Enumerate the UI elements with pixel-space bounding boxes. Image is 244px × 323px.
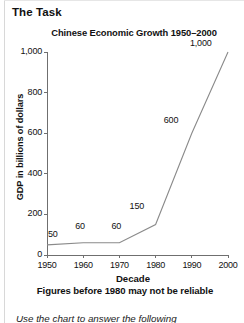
data-point-label: 150 (130, 201, 144, 211)
instruction-text: Use the chart to answer the following (16, 313, 177, 323)
x-tick-label: 1990 (174, 260, 210, 270)
data-point-label: 600 (164, 115, 178, 125)
data-point-label: 60 (75, 221, 85, 231)
chart-footnote: Figures before 1980 may not be reliable (0, 285, 244, 296)
y-tick-label: 200 (0, 208, 42, 218)
y-tick-label: 400 (0, 168, 42, 178)
x-tick-label: 1970 (101, 260, 137, 270)
y-tick-label: 1,000 (0, 46, 42, 56)
x-tick-label: 1980 (138, 260, 174, 270)
x-tick-label: 1950 (29, 260, 65, 270)
data-point-label: 50 (48, 229, 58, 239)
data-point-label: 60 (111, 221, 121, 231)
x-tick-label: 1960 (65, 260, 101, 270)
x-axis-label: Decade (0, 273, 244, 284)
y-tick-label: 0 (0, 249, 42, 259)
data-point-label: 1,000 (190, 38, 212, 48)
y-tick-label: 600 (0, 127, 42, 137)
page-root: The Task Chinese Economic Growth 1950–20… (0, 0, 244, 323)
y-tick-label: 800 (0, 87, 42, 97)
x-tick-label: 2000 (210, 260, 244, 270)
data-series-line (47, 52, 228, 245)
